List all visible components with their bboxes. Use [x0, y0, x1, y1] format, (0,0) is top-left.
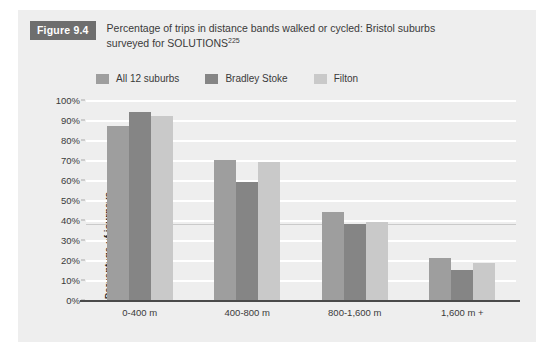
bar[interactable] — [322, 212, 344, 300]
bar[interactable] — [151, 116, 173, 300]
y-axis-tick-mark — [81, 280, 85, 281]
y-axis-tick-label: 30% — [61, 235, 80, 246]
bar[interactable] — [129, 112, 151, 300]
y-axis-tick-mark — [81, 220, 85, 221]
x-axis-tick-label: 1,600 m + — [441, 307, 484, 318]
y-axis-tick-label: 90% — [61, 115, 80, 126]
y-axis-tick-label: 0% — [66, 295, 80, 306]
y-axis-tick-mark — [81, 100, 85, 101]
figure-panel: Figure 9.4 Percentage of trips in distan… — [18, 10, 536, 342]
x-axis-tick-label: 400-800 m — [225, 307, 270, 318]
bar-group — [213, 100, 281, 300]
y-axis-tick-label: 20% — [61, 255, 80, 266]
bar-group — [321, 100, 389, 300]
x-axis-tick-label: 800-1,600 m — [328, 307, 381, 318]
figure-root: Figure 9.4 Percentage of trips in distan… — [0, 0, 551, 353]
y-axis-tick-mark — [81, 180, 85, 181]
bar-group — [106, 100, 174, 300]
bar[interactable] — [258, 162, 280, 300]
y-axis-tick-label: 50% — [61, 195, 80, 206]
y-axis-tick-mark — [81, 120, 85, 121]
bar[interactable] — [344, 224, 366, 300]
bar[interactable] — [236, 182, 258, 300]
y-axis-tick-mark — [81, 200, 85, 201]
bar[interactable] — [107, 126, 129, 300]
bar-group — [428, 100, 496, 300]
y-axis-tick-label: 80% — [61, 135, 80, 146]
y-axis-tick-label: 60% — [61, 175, 80, 186]
y-axis-tick-mark — [81, 240, 85, 241]
x-axis-tick-label: 0-400 m — [122, 307, 157, 318]
bar[interactable] — [451, 270, 473, 300]
y-axis-tick-mark — [81, 160, 85, 161]
x-axis-tick-labels: 0-400 m400-800 m800-1,600 m1,600 m + — [86, 307, 516, 327]
y-axis-tick-label: 10% — [61, 275, 80, 286]
chart-plot-area: Percentage of journeys 0%10%20%30%40%50%… — [86, 100, 516, 300]
y-axis-tick-label: 100% — [56, 95, 80, 106]
bar[interactable] — [429, 258, 451, 300]
bar[interactable] — [214, 160, 236, 300]
y-axis-tick-mark — [81, 140, 85, 141]
bar[interactable] — [473, 263, 495, 300]
chart-plot-wrapper: Percentage of journeys 0%10%20%30%40%50%… — [18, 10, 536, 342]
chart-bars-layer — [86, 100, 516, 300]
y-axis-tick-label: 40% — [61, 215, 80, 226]
bar[interactable] — [366, 222, 388, 300]
y-axis-tick-mark — [81, 260, 85, 261]
y-axis-tick-label: 70% — [61, 155, 80, 166]
x-axis-line — [80, 300, 520, 302]
